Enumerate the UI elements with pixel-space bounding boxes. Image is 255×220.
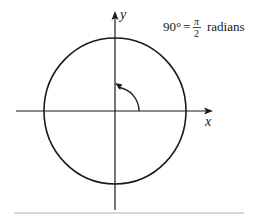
angle-annotation: 90° = π 2 radians [163, 16, 245, 39]
angle-arc [118, 87, 139, 111]
angle-arrow-icon [115, 83, 123, 91]
annotation-equals: = [183, 19, 190, 34]
y-axis-label: y [118, 7, 127, 22]
x-axis-label: x [204, 114, 212, 129]
annotation-denominator: 2 [194, 28, 199, 39]
annotation-numerator: π [194, 16, 200, 27]
angle-diagram: y x 90° = π 2 radians [0, 0, 255, 220]
annotation-degrees: 90° [163, 19, 181, 34]
annotation-unit: radians [207, 19, 245, 34]
